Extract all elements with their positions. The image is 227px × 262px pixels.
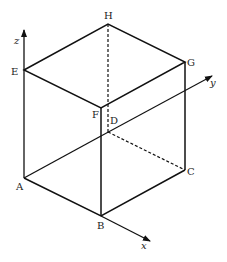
label-z-axis: z	[13, 35, 20, 46]
top-face	[24, 24, 185, 108]
x-axis	[101, 216, 150, 241]
label-B: B	[97, 220, 104, 231]
label-A: A	[15, 181, 24, 192]
y-axis	[101, 76, 212, 136]
edge-DC	[108, 132, 185, 170]
label-G: G	[187, 57, 195, 68]
label-C: C	[187, 166, 195, 177]
label-D: D	[110, 115, 118, 126]
cube-diagram: H E G F D A B C z y x	[0, 0, 227, 262]
label-E: E	[11, 66, 18, 77]
label-y-axis: y	[209, 77, 216, 88]
y-axis-hidden-part	[24, 136, 101, 178]
bottom-front-edges	[24, 170, 185, 216]
label-H: H	[104, 10, 113, 21]
cube-svg: H E G F D A B C z y x	[0, 0, 227, 262]
label-x-axis: x	[141, 240, 147, 251]
label-F: F	[92, 109, 99, 120]
